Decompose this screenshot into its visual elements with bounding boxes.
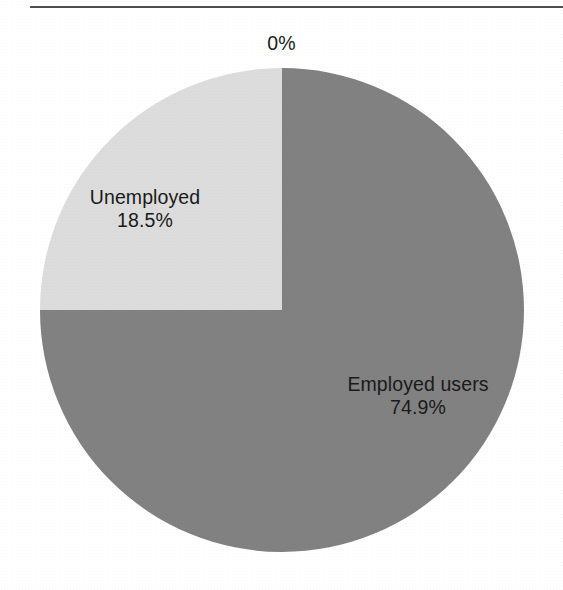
pie-label-unemployed: Unemployed 18.5%: [45, 186, 245, 232]
pie-label-unemployed-percent: 18.5%: [45, 209, 245, 232]
pie-label-employed-users: Employed users 74.9%: [320, 373, 516, 419]
pie-label-zero-percent: 0%: [0, 32, 563, 55]
pie-label-employed-users-name: Employed users: [347, 373, 488, 395]
pie-label-employed-users-percent: 74.9%: [320, 396, 516, 419]
pie-chart-svg: [0, 0, 563, 590]
pie-label-zero-percent-value: 0%: [267, 32, 295, 54]
pie-chart-figure: 0% Unemployed 18.5% Employed users 74.9%: [0, 0, 563, 590]
document-page: 0% Unemployed 18.5% Employed users 74.9%: [0, 0, 563, 590]
pie-label-unemployed-name: Unemployed: [90, 186, 200, 208]
